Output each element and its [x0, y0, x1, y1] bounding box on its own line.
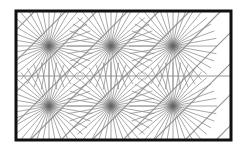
- star-center: [164, 37, 182, 55]
- diagonal-line: [234, 0, 246, 153]
- star-center: [102, 97, 120, 115]
- star-center: [164, 97, 182, 115]
- diagonal-line: [0, 0, 15, 153]
- star-center: [40, 37, 58, 55]
- pattern-figure: [0, 0, 246, 153]
- star-center: [40, 97, 58, 115]
- pattern-content: [0, 0, 246, 153]
- star-center: [102, 37, 120, 55]
